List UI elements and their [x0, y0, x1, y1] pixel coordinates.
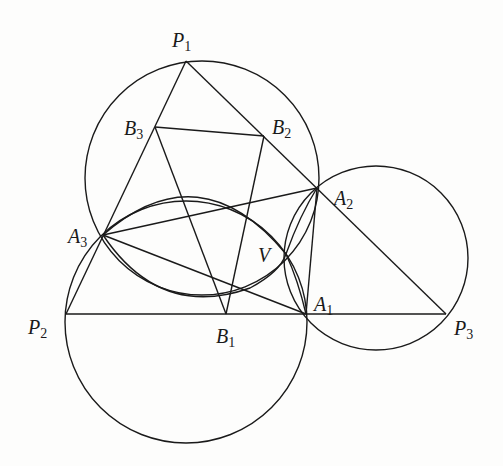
label-subscript: 3 [80, 235, 87, 250]
segment-P1-P2 [66, 61, 186, 314]
label-letter: A [334, 187, 346, 209]
label-letter: P [454, 317, 466, 339]
label-letter: B [216, 325, 228, 347]
segment-B3-B1 [155, 127, 226, 314]
point-label-P1: P1 [172, 30, 191, 54]
point-label-B1: B1 [216, 326, 235, 350]
label-subscript: 3 [136, 127, 143, 142]
point-label-V: V [258, 245, 270, 265]
label-subscript: 1 [228, 335, 235, 350]
segment-B2-B3 [155, 127, 264, 136]
point-label-B3: B3 [124, 118, 143, 142]
label-letter: A [68, 225, 80, 247]
label-subscript: 1 [326, 303, 333, 318]
label-letter: V [258, 244, 270, 266]
point-label-A2: A2 [334, 188, 353, 212]
label-subscript: 2 [40, 326, 47, 341]
label-letter: P [28, 316, 40, 338]
point-label-P2: P2 [28, 317, 47, 341]
label-subscript: 3 [466, 327, 473, 342]
label-subscript: 2 [346, 197, 353, 212]
label-letter: A [314, 293, 326, 315]
segment-A3-A1 [103, 235, 306, 314]
circle-P3-A1-A2 [284, 166, 468, 350]
point-label-A3: A3 [68, 226, 87, 250]
label-letter: P [172, 29, 184, 51]
geometry-figure: P1P2P3A1A2A3B1B2B3V [0, 0, 503, 466]
label-subscript: 2 [284, 126, 291, 141]
point-label-A1: A1 [314, 294, 333, 318]
segment-P1-P3 [186, 61, 446, 314]
label-letter: B [124, 117, 136, 139]
label-subscript: 1 [184, 39, 191, 54]
point-label-P3: P3 [454, 318, 473, 342]
point-label-B2: B2 [272, 117, 291, 141]
label-letter: B [272, 116, 284, 138]
